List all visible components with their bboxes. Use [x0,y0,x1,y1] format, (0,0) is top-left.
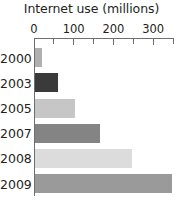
x-axis-tick-50 [53,38,54,44]
x-axis-tick-300 [153,38,154,45]
bar-2007 [35,124,100,143]
x-axis-tick-150 [93,38,94,44]
x-axis-tick-250 [133,38,134,44]
bar-2008 [35,149,132,168]
x-axis-tick-350 [173,38,174,44]
category-label-2005: 2005 [0,101,31,116]
category-label-2009: 2009 [0,177,31,192]
category-label-2008: 2008 [0,151,31,166]
category-label-2000: 2000 [0,51,31,66]
x-axis-tick-100 [73,38,74,45]
x-axis-tick-0 [34,38,35,45]
internet-use-bar-chart: Internet use (millions) 0100200300 20002… [0,0,183,204]
plot-area: 200020032005200720082009 [0,0,183,204]
bar-2003 [35,73,58,92]
category-label-2003: 2003 [0,76,31,91]
category-label-2007: 2007 [0,126,31,141]
bar-2009 [35,174,172,193]
bar-2000 [35,48,42,67]
x-axis-tick-200 [113,38,114,45]
bar-2005 [35,99,75,118]
